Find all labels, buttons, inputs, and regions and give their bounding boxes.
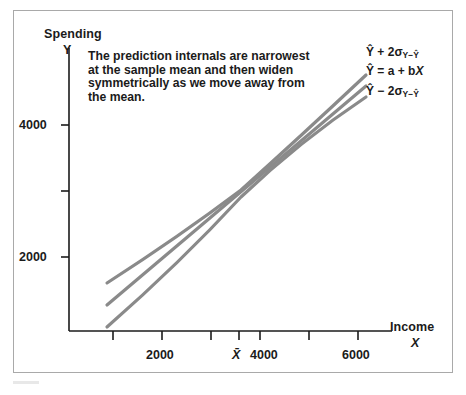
x-mean-marker-label: X̄: [232, 348, 240, 362]
chart-annotation-text: The prediction internals are narrowest a…: [88, 50, 320, 104]
legend-upper-op: +: [377, 45, 384, 59]
x-axis-variable: X: [411, 336, 419, 350]
y-tick-label-4000: 4000: [19, 118, 47, 132]
legend-label-upper-band: Ŷ + 2σY−Ŷ: [366, 45, 419, 60]
x-axis-title: Income: [390, 320, 434, 334]
legend-lower-op: −: [377, 84, 384, 98]
y-tick-label-2000: 2000: [19, 250, 47, 264]
x-tick-label-4000: 4000: [250, 348, 278, 362]
y-axis-variable: Y: [63, 43, 71, 57]
legend-lower-coef: 2σ: [388, 84, 403, 98]
regression-line: [107, 86, 366, 305]
legend-mid-yhat: Ŷ: [366, 64, 374, 78]
legend-mid-xvar: X: [415, 64, 423, 78]
legend-upper-coef: 2σ: [388, 45, 403, 59]
x-tick-label-2000: 2000: [146, 348, 174, 362]
legend-lower-yhat: Ŷ: [366, 84, 374, 98]
legend-lower-sub-hat: Ŷ: [413, 89, 419, 99]
y-axis-title: Spending: [44, 27, 102, 41]
legend-mid-expr: a + b: [388, 64, 416, 78]
lower-prediction-band-line: [107, 97, 366, 327]
x-tick-label-6000: 6000: [342, 348, 370, 362]
legend-label-lower-band: Ŷ − 2σY−Ŷ: [366, 84, 419, 99]
legend-upper-yhat: Ŷ: [366, 45, 374, 59]
legend-label-regression: Ŷ = a + bX: [366, 64, 423, 78]
legend-upper-sub-hat: Ŷ: [413, 50, 419, 60]
legend-mid-eq: =: [377, 64, 384, 78]
figure-container: Spending Y Income X 4000 2000 2000 X̄ 40…: [0, 0, 466, 395]
upper-prediction-band-line: [107, 75, 366, 283]
